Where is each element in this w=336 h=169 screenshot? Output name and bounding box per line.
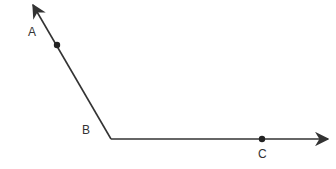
- angle-diagram: A B C: [0, 0, 336, 169]
- label-c: C: [258, 147, 267, 161]
- point-a: [54, 42, 60, 48]
- label-b: B: [82, 123, 90, 137]
- label-a: A: [28, 25, 36, 39]
- point-c: [259, 136, 265, 142]
- ray-ba: [33, 5, 111, 139]
